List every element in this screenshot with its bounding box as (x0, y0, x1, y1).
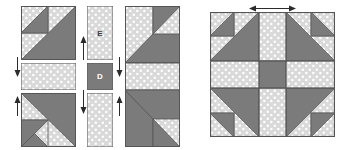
arrow-right-lower (115, 96, 124, 116)
piece-e-label: E (87, 6, 113, 60)
arrow-left-upper (13, 57, 22, 77)
piece-e-bottom (87, 93, 113, 147)
bottom-left-block (21, 93, 76, 147)
assembled-column-unit (125, 6, 180, 147)
arrow-center-lower (79, 90, 88, 114)
diagram-canvas: E D (0, 0, 343, 150)
piece-d-center: D (87, 63, 113, 90)
arrow-center-upper (79, 36, 88, 60)
piece-e-top: E (87, 6, 113, 60)
arrow-left-lower (13, 96, 22, 116)
piece-d-label: D (87, 63, 113, 90)
top-left-block (21, 6, 76, 60)
middle-left-strip (21, 63, 76, 90)
finished-quilt-block (210, 12, 335, 137)
arrow-right-upper (115, 57, 124, 77)
arrow-top-right-outward (268, 4, 296, 13)
